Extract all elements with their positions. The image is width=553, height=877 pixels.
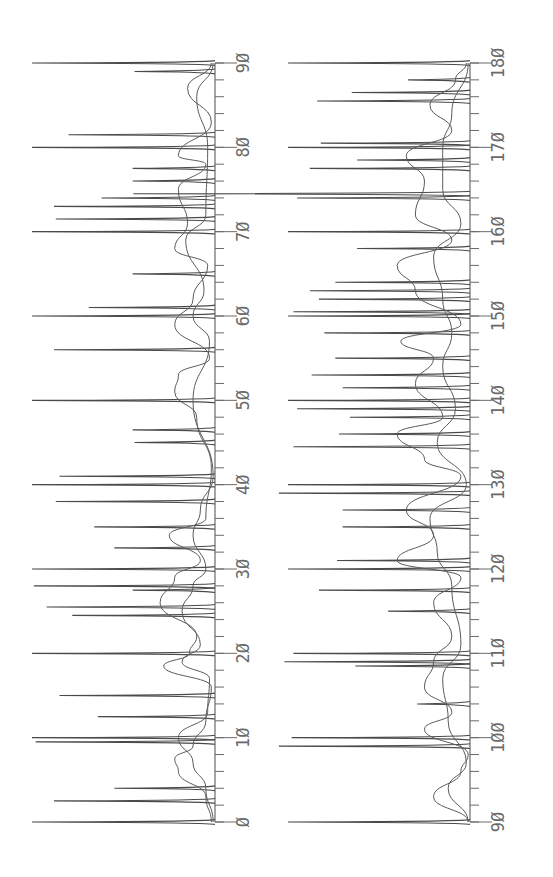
spectral-peak <box>293 651 470 656</box>
spectral-peak <box>133 588 215 593</box>
spectral-peak <box>34 583 215 588</box>
spectral-peak <box>343 524 470 529</box>
broad-envelope-curve <box>397 63 468 822</box>
spectral-peak <box>54 799 215 804</box>
spectral-peak <box>312 373 470 378</box>
tick-label: 2Ø <box>233 643 253 663</box>
tick-label: 15Ø <box>488 301 508 332</box>
spectral-peak <box>133 166 215 171</box>
spectral-peak <box>388 609 470 614</box>
spectral-peak <box>288 314 470 319</box>
spectral-peak <box>343 385 470 390</box>
spectral-peak <box>32 61 215 66</box>
spectral-peak <box>69 132 215 137</box>
spectral-peak <box>102 196 215 201</box>
spectral-peak <box>288 482 470 487</box>
broad-envelope-curve <box>430 63 468 822</box>
spectral-peak <box>310 288 470 293</box>
spectral-peak <box>335 280 470 285</box>
spectral-peak <box>339 432 470 437</box>
spectral-peak <box>284 659 470 664</box>
spectral-peak <box>317 99 470 104</box>
tick-label: 9Ø <box>233 53 253 73</box>
tick-label: 8Ø <box>233 137 253 157</box>
spectral-peak <box>319 297 470 302</box>
spectral-peak <box>408 77 470 82</box>
spectral-peak <box>36 739 215 744</box>
spectral-peak <box>279 491 470 496</box>
tick-label: 18Ø <box>488 48 508 79</box>
tick-label: 13Ø <box>488 469 508 500</box>
spectral-peak <box>32 482 215 487</box>
spectral-peak <box>133 191 470 196</box>
spectral-peak <box>72 613 215 618</box>
spectral-peak <box>98 714 215 719</box>
tick-label: 6Ø <box>233 306 253 326</box>
tick-label: Ø <box>233 817 253 827</box>
spectral-peak <box>324 330 470 335</box>
spectral-peak <box>310 166 470 171</box>
spectral-peak <box>288 398 470 403</box>
spectral-peak <box>355 664 470 669</box>
spectrum-plot: Ø1Ø2Ø3Ø4Ø5Ø6Ø7Ø8Ø9Ø 9Ø1ØØ11Ø12Ø13Ø14Ø15Ø… <box>0 0 553 877</box>
spectral-peak <box>56 217 215 222</box>
spectral-peak <box>32 229 215 234</box>
spectral-peak <box>133 179 215 184</box>
tick-label: 1ØØ <box>488 722 508 753</box>
spectral-peak <box>357 158 470 163</box>
spectral-peak <box>357 246 470 251</box>
spectral-peak <box>293 444 470 449</box>
spectral-peak <box>59 693 215 698</box>
spectral-peak <box>279 744 470 749</box>
broad-envelope-curve <box>178 63 213 822</box>
tick-label: 16Ø <box>488 216 508 247</box>
spectral-peak <box>297 406 470 411</box>
spectral-peak <box>32 145 215 150</box>
spectral-peak <box>335 356 470 361</box>
spectral-peak <box>32 314 215 319</box>
spectral-peak <box>32 398 215 403</box>
lower-spectrum-panel: 9Ø1ØØ11Ø12Ø13Ø14Ø15Ø16Ø17Ø18Ø <box>133 48 508 833</box>
spectral-peak <box>94 524 215 529</box>
tick-label: 5Ø <box>233 390 253 410</box>
spectral-peak <box>352 90 470 95</box>
spectral-peak <box>321 141 470 146</box>
tick-label: 7Ø <box>233 221 253 241</box>
tick-label: 17Ø <box>488 132 508 163</box>
tick-label: 4Ø <box>233 474 253 494</box>
spectral-peak <box>292 735 470 740</box>
tick-label: 12Ø <box>488 554 508 585</box>
spectral-peak <box>32 735 215 740</box>
tick-label: 1Ø <box>233 727 253 747</box>
spectral-peak <box>288 820 470 825</box>
tick-label: 11Ø <box>488 638 508 669</box>
spectral-peak <box>337 558 470 563</box>
spectral-peak <box>59 474 215 479</box>
spectral-peak <box>134 69 215 74</box>
spectral-peak <box>47 605 215 610</box>
tick-label: 3Ø <box>233 559 253 579</box>
spectral-peak <box>56 499 215 504</box>
spectral-peak <box>54 347 215 352</box>
spectral-peak <box>288 229 470 234</box>
spectral-peak <box>32 820 215 825</box>
spectral-peak <box>133 271 215 276</box>
tick-label: 14Ø <box>488 385 508 416</box>
tick-label: 9Ø <box>488 812 508 832</box>
spectral-peak <box>288 61 470 66</box>
spectral-peak <box>54 204 215 209</box>
spectral-peak <box>133 427 215 432</box>
spectral-peak <box>114 546 215 551</box>
upper-spectrum-panel: Ø1Ø2Ø3Ø4Ø5Ø6Ø7Ø8Ø9Ø <box>32 53 253 827</box>
